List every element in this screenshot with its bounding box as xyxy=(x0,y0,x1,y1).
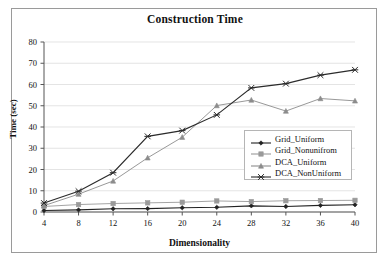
legend-marker-icon xyxy=(250,168,272,178)
data-point-marker xyxy=(110,170,117,176)
y-tick-label: 40 xyxy=(15,122,37,132)
legend-label: DCA_Uniform xyxy=(275,157,326,167)
chart-figure: Construction Time 01020304050607080 4812… xyxy=(0,0,390,264)
data-point-marker xyxy=(353,203,357,207)
data-point-marker xyxy=(145,201,149,205)
data-point-marker xyxy=(248,85,255,91)
x-tick-label: 16 xyxy=(136,218,160,228)
legend-item[interactable]: Grid_Nonunifrom xyxy=(245,145,351,157)
legend-label: Grid_Nonunifrom xyxy=(275,145,337,155)
data-point-marker xyxy=(318,198,322,202)
y-tick-label: 50 xyxy=(15,101,37,111)
y-tick-label: 0 xyxy=(15,207,37,217)
x-tick-label: 12 xyxy=(101,218,125,228)
axis-ticks xyxy=(41,42,356,216)
data-point-marker xyxy=(353,198,357,202)
data-point-marker xyxy=(145,155,150,160)
x-tick-label: 4 xyxy=(32,218,56,228)
data-point-marker xyxy=(213,112,220,118)
y-tick-label: 80 xyxy=(15,37,37,47)
data-point-marker xyxy=(111,178,116,183)
y-tick-label: 60 xyxy=(15,80,37,90)
data-point-marker xyxy=(179,128,186,134)
data-point-marker xyxy=(284,204,288,208)
legend-marker-icon xyxy=(250,134,272,144)
data-point-marker xyxy=(352,67,359,73)
x-tick-label: 8 xyxy=(67,218,91,228)
chart-legend: Grid_UniformGrid_NonunifromDCA_UniformDC… xyxy=(244,130,352,180)
data-point-marker xyxy=(258,174,265,180)
data-point-marker xyxy=(76,208,80,212)
data-point-marker xyxy=(111,201,115,205)
y-tick-label: 10 xyxy=(15,186,37,196)
gridlines xyxy=(44,42,355,212)
legend-marker-icon xyxy=(250,145,272,155)
data-point-marker xyxy=(249,97,254,102)
legend-label: DCA_NonUniform xyxy=(275,168,341,178)
x-tick-label: 24 xyxy=(205,218,229,228)
data-point-marker xyxy=(180,200,184,204)
x-tick-label: 32 xyxy=(274,218,298,228)
data-point-marker xyxy=(249,204,253,208)
series-line xyxy=(44,205,355,211)
y-tick-label: 30 xyxy=(15,143,37,153)
data-point-marker xyxy=(284,199,288,203)
legend-label: Grid_Uniform xyxy=(275,134,324,144)
y-axis-title: Time (sec) xyxy=(8,89,18,149)
data-point-marker xyxy=(111,207,115,211)
legend-marker-icon xyxy=(250,157,272,167)
data-point-marker xyxy=(144,133,151,139)
legend-item[interactable]: Grid_Uniform xyxy=(245,133,351,145)
data-point-marker xyxy=(318,203,322,207)
data-point-marker xyxy=(283,81,290,87)
x-tick-label: 20 xyxy=(170,218,194,228)
legend-item[interactable]: DCA_NonUniform xyxy=(245,168,351,180)
data-point-marker xyxy=(145,206,149,210)
x-tick-label: 40 xyxy=(343,218,367,228)
x-tick-label: 36 xyxy=(308,218,332,228)
x-axis-title: Dimensionality xyxy=(44,238,355,248)
y-tick-label: 20 xyxy=(15,165,37,175)
legend-item[interactable]: DCA_Uniform xyxy=(245,156,351,168)
data-point-marker xyxy=(317,72,324,78)
y-tick-label: 70 xyxy=(15,58,37,68)
data-point-marker xyxy=(76,202,80,206)
data-point-marker xyxy=(215,205,219,209)
data-point-marker xyxy=(249,199,253,203)
data-point-marker xyxy=(215,199,219,203)
x-tick-label: 28 xyxy=(239,218,263,228)
data-point-marker xyxy=(180,206,184,210)
